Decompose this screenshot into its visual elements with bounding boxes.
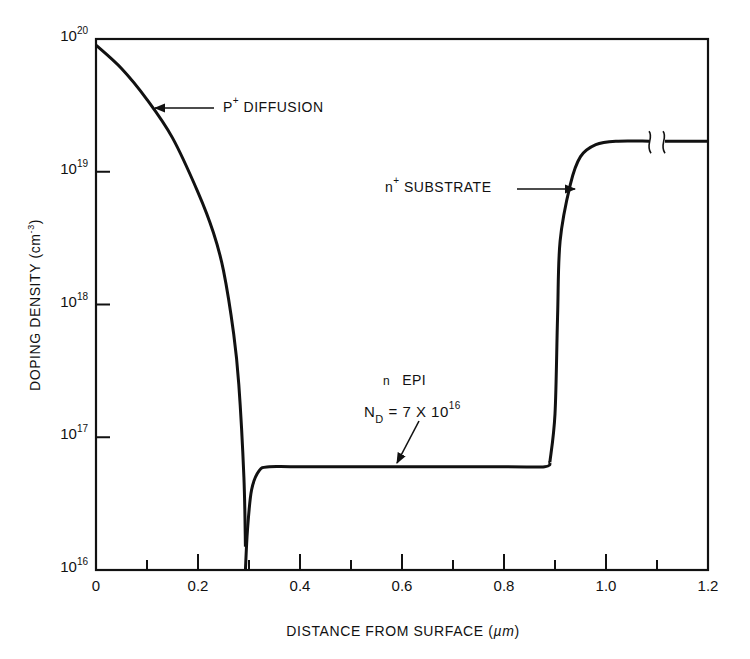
axis-ticks [96, 172, 657, 570]
doping-profile-chart [0, 0, 750, 659]
series-n-epi [245, 462, 550, 570]
x-tick-label: 0.2 [188, 577, 209, 594]
axis-break-mark [649, 131, 651, 153]
y-tick-label: 1017 [38, 423, 88, 442]
y-tick-label: 1018 [38, 291, 88, 310]
x-axis-title: DISTANCE FROM SURFACE (µm) [0, 623, 750, 639]
y-tick-label: 1016 [38, 556, 88, 575]
series-p-diffusion [96, 45, 245, 547]
data-curves [96, 45, 708, 570]
n-epi-label: nEPI [383, 372, 426, 388]
x-tick-label: 0.8 [494, 577, 515, 594]
y-tick-label: 1020 [38, 25, 88, 44]
x-tick-label: 0.4 [290, 577, 311, 594]
x-tick-label: 1.0 [596, 577, 617, 594]
plot-border [96, 39, 708, 570]
axis-break-mark [663, 131, 665, 153]
y-axis-title: DOPING DENSITY (cm-3) [26, 219, 43, 391]
plot-frame [96, 39, 708, 570]
x-tick-label: 1.2 [698, 577, 719, 594]
x-tick-label: 0.6 [392, 577, 413, 594]
x-tick-label: 0 [92, 577, 100, 594]
p-diffusion-label: P+ DIFFUSION [223, 97, 324, 115]
nd-arrow [397, 421, 419, 463]
n-substrate-label: n+ SUBSTRATE [385, 177, 492, 195]
y-tick-label: 1019 [38, 158, 88, 177]
nd-concentration-label: ND = 7 X 1016 [364, 402, 461, 423]
